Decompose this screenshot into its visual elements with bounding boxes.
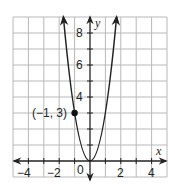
point-marker	[71, 110, 77, 116]
x-tick-label-neg4: −4	[17, 166, 31, 180]
x-tick-label-2: 2	[117, 166, 124, 180]
y-tick-label-8: 8	[76, 26, 83, 40]
x-tick-label-neg2: −2	[47, 166, 61, 180]
x-tick-label-4: 4	[148, 166, 155, 180]
point-label: (−1, 3)	[32, 106, 67, 120]
y-tick-label-4: 4	[76, 90, 83, 104]
origin-label: 0	[77, 163, 84, 177]
x-axis-label: x	[155, 144, 162, 158]
y-tick-label-6: 6	[76, 58, 83, 72]
parabola-chart: (−1, 3) 8 6 4 −4 −2 0 2 4 x y	[0, 0, 175, 190]
y-axis-label: y	[94, 16, 101, 30]
